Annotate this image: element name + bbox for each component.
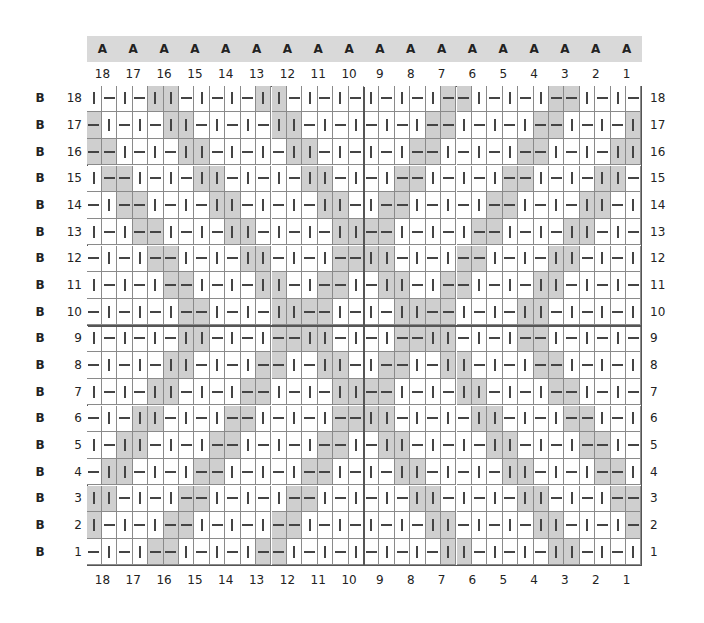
grid-cell: [503, 246, 518, 273]
horizontal-bar-icon: [427, 417, 438, 419]
row-number-label: 4: [58, 465, 82, 479]
grid-cell: [179, 432, 194, 459]
horizontal-bar-icon: [397, 204, 408, 206]
grid-cell: [595, 86, 610, 113]
horizontal-bar-icon: [397, 497, 408, 499]
shaded-cell: [256, 272, 271, 299]
horizontal-bar-icon: [335, 444, 346, 446]
grid-cell: [117, 246, 132, 273]
vertical-bar-icon: [293, 199, 295, 211]
shaded-cell: [395, 459, 410, 486]
shaded-cell: [503, 192, 518, 219]
shaded-cell: [287, 486, 302, 513]
grid-cell: [595, 406, 610, 433]
shaded-cell: [534, 326, 549, 353]
horizontal-bar-icon: [612, 257, 623, 259]
grid-cell: [457, 139, 472, 166]
horizontal-bar-icon: [551, 231, 562, 233]
vertical-bar-icon: [185, 119, 187, 131]
horizontal-bar-icon: [366, 551, 377, 553]
vertical-bar-icon: [632, 252, 634, 264]
grid-cell: [164, 139, 179, 166]
shaded-cell: [379, 352, 394, 379]
grid-cell: [503, 512, 518, 539]
vertical-bar-icon: [571, 492, 573, 504]
grid-cell: [117, 539, 132, 566]
vertical-bar-icon: [278, 119, 280, 131]
vertical-bar-icon: [432, 439, 434, 451]
vertical-bar-icon: [509, 439, 511, 451]
horizontal-bar-icon: [427, 471, 438, 473]
row-number-label: 3: [650, 491, 674, 505]
row-number-label: 9: [650, 331, 674, 345]
horizontal-bar-icon: [474, 231, 485, 233]
horizontal-bar-icon: [474, 124, 485, 126]
shaded-cell: [287, 326, 302, 353]
grid-cell: [395, 246, 410, 273]
horizontal-bar-icon: [258, 311, 269, 313]
column-number-label: 13: [241, 573, 272, 587]
shaded-cell: [379, 192, 394, 219]
shaded-cell: [318, 326, 333, 353]
shaded-cell: [472, 406, 487, 433]
grid-cell: [164, 192, 179, 219]
shaded-cell: [534, 352, 549, 379]
grid-cell: [256, 139, 271, 166]
horizontal-bar-icon: [304, 364, 315, 366]
horizontal-bar-icon: [119, 257, 130, 259]
horizontal-bar-icon: [350, 257, 361, 259]
vertical-bar-icon: [447, 332, 449, 344]
grid-cell: [179, 166, 194, 193]
shaded-cell: [87, 486, 102, 513]
grid-cell: [210, 512, 225, 539]
horizontal-bar-icon: [551, 177, 562, 179]
grid-cell: [472, 486, 487, 513]
shaded-cell: [441, 112, 456, 139]
grid-cell: [487, 272, 502, 299]
grid-cell: [503, 219, 518, 246]
vertical-bar-icon: [432, 92, 434, 104]
vertical-bar-icon: [416, 252, 418, 264]
vertical-bar-icon: [432, 226, 434, 238]
grid-cell: [549, 139, 564, 166]
grid-cell: [318, 539, 333, 566]
shaded-cell: [426, 139, 441, 166]
vertical-bar-icon: [524, 546, 526, 558]
grid-cell: [87, 406, 102, 433]
grid-cell: [333, 459, 348, 486]
horizontal-bar-icon: [535, 124, 546, 126]
horizontal-bar-icon: [427, 204, 438, 206]
row-number-label: 6: [650, 411, 674, 425]
vertical-bar-icon: [432, 386, 434, 398]
grid-cell: [472, 112, 487, 139]
grid-cell: [333, 486, 348, 513]
horizontal-bar-icon: [412, 177, 423, 179]
horizontal-bar-icon: [443, 444, 454, 446]
grid-cell: [333, 539, 348, 566]
grid-cell: [457, 299, 472, 326]
shaded-cell: [272, 512, 287, 539]
vertical-bar-icon: [632, 146, 634, 158]
vertical-bar-icon: [478, 279, 480, 291]
horizontal-bar-icon: [227, 311, 238, 313]
vertical-bar-icon: [447, 466, 449, 478]
horizontal-bar-icon: [412, 97, 423, 99]
vertical-bar-icon: [185, 252, 187, 264]
grid-cell: [256, 512, 271, 539]
vertical-bar-icon: [494, 306, 496, 318]
row-letter-label: B: [33, 91, 47, 105]
vertical-bar-icon: [447, 519, 449, 531]
grid-cell: [333, 86, 348, 113]
horizontal-bar-icon: [196, 497, 207, 499]
vertical-bar-icon: [463, 119, 465, 131]
grid-cell: [349, 272, 364, 299]
vertical-bar-icon: [170, 386, 172, 398]
horizontal-bar-icon: [350, 204, 361, 206]
grid-cell: [379, 326, 394, 353]
vertical-bar-icon: [324, 199, 326, 211]
shaded-cell: [410, 459, 425, 486]
grid-cell: [426, 166, 441, 193]
horizontal-bar-icon: [458, 151, 469, 153]
horizontal-bar-icon: [612, 551, 623, 553]
grid-cell: [225, 299, 240, 326]
